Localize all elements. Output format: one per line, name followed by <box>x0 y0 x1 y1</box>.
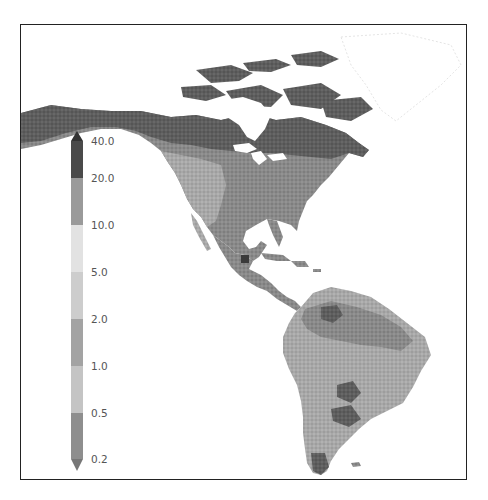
colorbar-segment-0.5-0.2 <box>71 413 83 459</box>
colorbar-segment-5-2 <box>71 272 83 319</box>
colorbar-tick-label: 0.5 <box>91 407 108 419</box>
caribbean-islands <box>261 253 321 272</box>
colorbar-tick-label: 0.2 <box>91 453 108 465</box>
colorbar-tick-label: 1.0 <box>91 360 108 372</box>
colorbar-tick-label: 2.0 <box>91 313 108 325</box>
figure-caption <box>0 490 488 500</box>
colorbar-top-arrow <box>71 131 83 141</box>
colorbar-tick-label: 10.0 <box>91 219 114 231</box>
colorbar-tick-label: 40.0 <box>91 135 114 147</box>
colorbar-bottom-arrow <box>71 459 83 471</box>
yucatan-dark-spot <box>241 255 249 263</box>
colorbar-segment-1-0.5 <box>71 366 83 413</box>
colorbar-tick-label: 20.0 <box>91 172 114 184</box>
colorbar-segment-10-5 <box>71 225 83 272</box>
map-frame: 40.0 20.0 10.0 5.0 2.0 1.0 0.5 0.2 <box>20 24 467 480</box>
arctic-islands <box>181 51 373 121</box>
colorbar-segment-2-1 <box>71 319 83 366</box>
americas-map <box>21 25 467 480</box>
colorbar-tick-label: 5.0 <box>91 266 108 278</box>
colorbar-segment-20-10 <box>71 178 83 225</box>
florida <box>267 219 283 247</box>
colorbar-segment-40-20 <box>71 141 83 178</box>
falkland-islands <box>351 462 361 467</box>
